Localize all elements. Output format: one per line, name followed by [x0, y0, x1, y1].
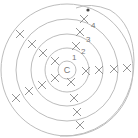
x-mark-icon	[73, 108, 81, 116]
x-mark-icon	[38, 81, 46, 89]
start-dot	[86, 8, 89, 11]
ring-label: 1	[72, 53, 77, 62]
x-mark-icon	[95, 66, 103, 74]
ring-label: 4	[91, 21, 96, 30]
x-mark-icon	[25, 87, 33, 95]
x-mark-icon	[70, 94, 78, 102]
x-mark-icon	[72, 42, 80, 50]
x-mark-icon	[76, 121, 84, 129]
x-mark-icon	[28, 40, 36, 48]
x-mark-icon	[67, 78, 75, 86]
x-mark-icon	[51, 74, 59, 82]
x-mark-icon	[16, 30, 24, 38]
ring-label: 2	[81, 47, 86, 56]
outer-spiral-arc	[60, 5, 134, 136]
x-mark-icon	[39, 49, 47, 57]
x-mark-icon	[12, 94, 20, 102]
ring-labels-group: 4321	[72, 21, 96, 62]
ring-label: 3	[86, 35, 91, 44]
x-mark-icon	[76, 28, 84, 36]
x-mark-icon	[110, 65, 118, 73]
x-mark-icon	[123, 64, 131, 72]
x-mark-icon	[51, 57, 59, 65]
concentric-circles-diagram: 4321 C	[0, 0, 138, 138]
center-label: C	[64, 65, 71, 75]
x-marks-group	[12, 15, 131, 129]
